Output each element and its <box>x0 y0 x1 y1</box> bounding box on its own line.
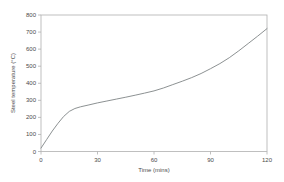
chart-canvas: 01002003004005006007008000306090120 <box>0 0 284 182</box>
x-tick-label: 90 <box>207 157 214 163</box>
y-tick-label: 600 <box>26 46 37 52</box>
y-tick-label: 700 <box>26 29 37 35</box>
x-axis-label: Time (mins) <box>41 167 267 173</box>
steel-temperature-chart: 01002003004005006007008000306090120 Time… <box>0 0 284 182</box>
y-tick-label: 200 <box>26 114 37 120</box>
x-tick-label: 120 <box>262 157 273 163</box>
x-tick-label: 60 <box>151 157 158 163</box>
y-tick-label: 300 <box>26 97 37 103</box>
temperature-curve <box>41 29 267 149</box>
y-tick-label: 800 <box>26 12 37 18</box>
y-tick-label: 400 <box>26 80 37 86</box>
x-tick-label: 30 <box>94 157 101 163</box>
plot-frame <box>41 15 267 152</box>
y-tick-label: 500 <box>26 63 37 69</box>
y-tick-label: 100 <box>26 131 37 137</box>
x-tick-label: 0 <box>39 157 43 163</box>
y-tick-label: 0 <box>33 149 37 155</box>
y-axis-label: Steel temperature (°C) <box>10 53 16 113</box>
